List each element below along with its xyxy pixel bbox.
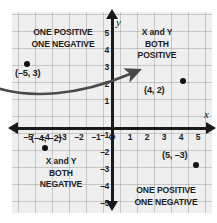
data-point-label--4--2: (–4, –2) — [31, 133, 61, 143]
quadrant-1-line-3: POSITIVE — [126, 50, 188, 62]
quadrant-3-label: X and Y BOTH NEGATIVE — [30, 156, 92, 191]
data-point-label-5--3: (5, –3) — [162, 150, 187, 160]
data-point-label-4-2: (4, 2) — [144, 85, 165, 95]
quadrant-4-label: ONE POSITIVE ONE NEGATIVE — [124, 185, 208, 208]
quadrant-1-line-1: X and Y — [126, 27, 188, 39]
y-tick--5: –5 — [95, 198, 109, 208]
quadrant-2-label: ONE POSITIVE ONE NEGATIVE — [21, 27, 105, 50]
plot-area: x y –5 –4 –3 –2 –1 O 1 2 3 4 5 5 4 3 2 1… — [12, 12, 212, 213]
y-tick--4: –4 — [95, 181, 109, 191]
x-tick-5: 5 — [190, 132, 206, 142]
x-axis-right-arrowhead — [206, 122, 216, 134]
x-tick-3: 3 — [156, 132, 172, 142]
data-point-label--5-3: (–5, 3) — [15, 68, 40, 78]
quadrant-2-line-2: ONE NEGATIVE — [21, 39, 105, 51]
quadrant-2-line-1: ONE POSITIVE — [21, 27, 105, 39]
y-tick--2: –2 — [95, 147, 109, 157]
data-point--5-3 — [24, 61, 30, 67]
quadrant-3-line-2: BOTH — [30, 168, 92, 180]
quadrant-1-label: X and Y BOTH POSITIVE — [126, 27, 188, 62]
quadrant-3-line-1: X and Y — [30, 156, 92, 168]
quadrant-1-line-2: BOTH — [126, 39, 188, 51]
data-point-5--3 — [193, 162, 199, 168]
y-tick-1: 1 — [95, 96, 109, 106]
data-point--4--2 — [42, 145, 48, 151]
x-tick-4: 4 — [173, 132, 189, 142]
coordinate-plane-figure: x y –5 –4 –3 –2 –1 O 1 2 3 4 5 5 4 3 2 1… — [0, 0, 217, 223]
y-tick-3: 3 — [95, 62, 109, 72]
x-tick--2: –2 — [71, 132, 87, 142]
x-tick-2: 2 — [139, 132, 155, 142]
quadrant-3-line-3: NEGATIVE — [30, 179, 92, 191]
y-axis-label: y — [116, 16, 121, 28]
y-tick--1: –1 — [95, 130, 109, 140]
x-axis-left-arrowhead — [8, 122, 18, 134]
x-axis-label: x — [204, 108, 209, 120]
x-tick-1: 1 — [122, 132, 138, 142]
quadrant-4-line-2: ONE NEGATIVE — [124, 197, 208, 209]
y-tick-2: 2 — [95, 79, 109, 89]
y-tick--3: –3 — [95, 164, 109, 174]
data-point-4-2 — [180, 78, 186, 84]
quadrant-4-line-1: ONE POSITIVE — [124, 185, 208, 197]
y-axis-line — [111, 18, 114, 208]
